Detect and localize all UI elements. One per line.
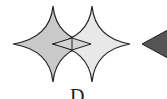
- figure-label: D: [70, 86, 84, 99]
- right-triangle-shape: [142, 26, 167, 62]
